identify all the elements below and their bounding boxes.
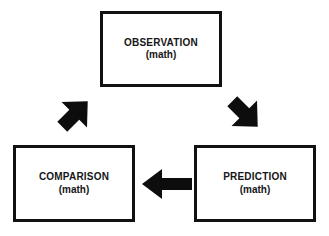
node-comparison-title: COMPARISON [39, 171, 109, 183]
arrow-prediction-to-comparison-icon [141, 168, 193, 200]
node-prediction: PREDICTION (math) [194, 145, 316, 222]
node-prediction-title: PREDICTION [223, 171, 287, 183]
diagram-canvas: OBSERVATION (math) COMPARISON (math) PRE… [0, 0, 329, 236]
node-observation-subtitle: (math) [146, 49, 177, 61]
node-comparison: COMPARISON (math) [13, 145, 135, 222]
arrow-observation-to-prediction-icon [226, 94, 264, 134]
node-observation-title: OBSERVATION [124, 37, 198, 49]
node-observation: OBSERVATION (math) [100, 11, 222, 87]
arrow-comparison-to-observation-icon [56, 94, 94, 134]
node-comparison-subtitle: (math) [59, 184, 90, 196]
node-prediction-subtitle: (math) [240, 184, 271, 196]
